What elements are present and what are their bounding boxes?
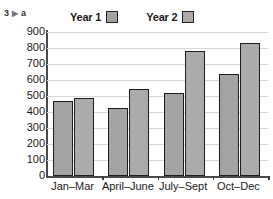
page-cut-text — [0, 195, 273, 199]
x-tick-label: Oct–Dec — [211, 180, 266, 193]
bar-chart-figure: 3 ▶ a Year 1 Year 2 90080070060050040030… — [0, 0, 273, 199]
x-tick-label: Jan–Mar — [45, 180, 100, 193]
x-tick-label: July–Sept — [156, 180, 211, 193]
x-axis-tick-end — [268, 176, 270, 180]
x-axis-tick-labels: Jan–MarApril–JuneJuly–SeptOct–Dec — [0, 0, 273, 199]
x-tick-label: April–June — [100, 180, 155, 193]
